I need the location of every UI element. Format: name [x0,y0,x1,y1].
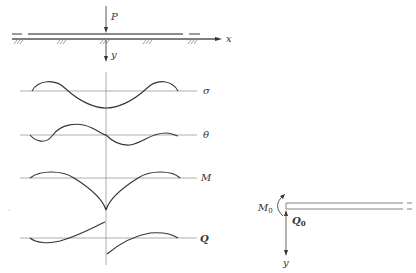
sigma-label: σ [203,85,211,96]
load-label: P [110,11,118,22]
shear-label: Q [200,233,209,244]
moment-diagram: M [20,172,212,210]
x-axis-label: x [226,33,232,44]
shear-diagram: Q [20,222,209,254]
beam-diagram: P y x σ θ M Q [0,0,416,273]
sigma-diagram: σ [20,82,211,108]
y-axis-arrow-icon [104,56,108,62]
y-axis-label: y [110,49,117,60]
stray-mark [8,209,9,210]
theta-diagram: θ [20,124,209,145]
y-axis-label-right: y [282,257,289,268]
shear-label-q0: Q0 [292,215,306,228]
infinite-beam: P y x [12,6,232,62]
moment-arc-icon [278,197,283,216]
theta-label: θ [203,129,209,140]
moment-label-m0: M0 [257,202,273,215]
x-axis-arrow-icon [215,37,222,41]
foundation-hatch-icons [14,40,197,44]
semi-infinite-beam: M0 Q0 y [257,194,412,268]
y-axis-arrow-icon-right [284,250,288,256]
load-arrow-icon [104,27,108,33]
moment-label: M [200,172,212,183]
